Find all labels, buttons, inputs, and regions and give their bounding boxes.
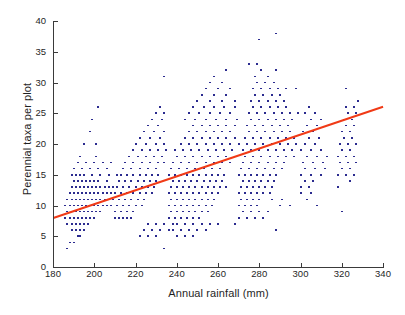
data-point — [71, 186, 73, 188]
data-point — [194, 186, 196, 188]
data-point — [95, 199, 97, 201]
data-point — [79, 156, 81, 158]
data-point — [184, 119, 186, 121]
data-point — [132, 149, 134, 151]
data-point — [271, 199, 273, 201]
data-point — [176, 186, 178, 188]
data-point — [267, 180, 269, 182]
data-point — [99, 186, 101, 188]
data-point — [75, 174, 77, 176]
data-point — [264, 112, 266, 114]
data-point — [205, 143, 207, 145]
data-point — [238, 143, 240, 145]
data-point — [104, 186, 106, 188]
data-point — [172, 229, 174, 231]
data-point — [159, 137, 161, 139]
data-point — [192, 137, 194, 139]
scatter-plot-figure: 0510152025303540 18020022024026028030032… — [0, 0, 405, 315]
data-point — [174, 149, 176, 151]
data-point — [275, 162, 277, 164]
data-point — [87, 211, 89, 213]
data-point — [256, 112, 258, 114]
data-point — [170, 199, 172, 201]
data-point — [277, 106, 279, 108]
data-point — [196, 229, 198, 231]
data-point — [132, 211, 134, 213]
data-point — [310, 149, 312, 151]
data-point — [149, 149, 151, 151]
data-point — [75, 199, 77, 201]
data-point — [297, 112, 299, 114]
data-point — [168, 205, 170, 207]
x-tick-mark — [259, 263, 260, 267]
data-point — [252, 199, 254, 201]
data-point — [66, 223, 68, 225]
data-point — [114, 217, 116, 219]
data-point — [77, 217, 79, 219]
data-point — [186, 205, 188, 207]
data-point — [99, 174, 101, 176]
data-point — [267, 119, 269, 121]
data-point — [234, 137, 236, 139]
x-tick-mark — [218, 263, 219, 267]
data-point — [283, 149, 285, 151]
data-point — [83, 186, 85, 188]
data-point — [194, 199, 196, 201]
data-point — [262, 94, 264, 96]
data-point — [182, 199, 184, 201]
data-point — [250, 211, 252, 213]
data-point — [320, 174, 322, 176]
data-point — [168, 229, 170, 231]
data-point — [273, 82, 275, 84]
data-point — [172, 162, 174, 164]
data-point — [188, 112, 190, 114]
y-tick-mark — [54, 236, 58, 237]
data-point — [91, 211, 93, 213]
data-point — [168, 217, 170, 219]
data-point — [87, 223, 89, 225]
data-point — [256, 168, 258, 170]
data-point — [246, 217, 248, 219]
data-point — [353, 174, 355, 176]
data-point — [124, 180, 126, 182]
data-point — [209, 137, 211, 139]
data-point — [69, 205, 71, 207]
data-point — [310, 192, 312, 194]
plot-area — [53, 21, 383, 267]
data-point — [260, 137, 262, 139]
data-point — [256, 63, 258, 65]
data-point — [209, 82, 211, 84]
data-point — [118, 180, 120, 182]
data-point — [355, 162, 357, 164]
data-point — [182, 211, 184, 213]
x-tick-label: 260 — [198, 269, 238, 279]
data-point — [132, 174, 134, 176]
data-point — [225, 94, 227, 96]
data-point — [209, 125, 211, 127]
y-tick-mark — [54, 52, 58, 53]
data-point — [163, 248, 165, 250]
data-point — [310, 174, 312, 176]
data-point — [250, 119, 252, 121]
data-point — [198, 205, 200, 207]
data-point — [264, 82, 266, 84]
data-point — [258, 100, 260, 102]
data-point — [250, 205, 252, 207]
data-point — [357, 100, 359, 102]
data-point — [234, 106, 236, 108]
data-point — [211, 168, 213, 170]
data-point — [213, 143, 215, 145]
data-point — [316, 156, 318, 158]
x-tick-mark — [94, 263, 95, 267]
data-point — [267, 100, 269, 102]
data-point — [153, 131, 155, 133]
data-point — [79, 223, 81, 225]
x-tick-mark — [53, 263, 54, 267]
data-point — [337, 156, 339, 158]
data-point — [79, 229, 81, 231]
data-point — [198, 174, 200, 176]
data-point — [269, 106, 271, 108]
data-point — [192, 106, 194, 108]
data-point — [130, 180, 132, 182]
data-point — [279, 125, 281, 127]
